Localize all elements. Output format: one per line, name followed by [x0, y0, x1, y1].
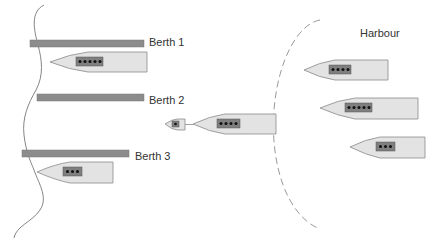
container-dots: [66, 170, 79, 173]
harbour-boundary: [273, 20, 320, 229]
berth-2: Berth 2: [37, 94, 184, 106]
harbour-diagram: Harbour Berth 1 Berth 2 Berth 3: [0, 0, 445, 243]
tug-dot: [174, 123, 177, 126]
waiting-ship-2: [320, 98, 418, 119]
harbour-label: Harbour: [360, 27, 400, 39]
berth-2-bar: [37, 94, 144, 101]
approaching-ship: [193, 114, 276, 134]
berth-3-bar: [22, 150, 129, 157]
berth-1: Berth 1: [30, 36, 184, 48]
berth-1-label: Berth 1: [149, 36, 184, 48]
tug-boat: [165, 119, 185, 130]
berth-1-bar: [30, 40, 144, 47]
waiting-ship-3: [350, 137, 425, 158]
container-dots: [379, 145, 392, 148]
waiting-ship-1: [304, 60, 388, 80]
ship-berth-3: [37, 162, 113, 183]
berth-2-label: Berth 2: [149, 94, 184, 106]
ship-berth-1: [50, 52, 147, 72]
berth-3-label: Berth 3: [135, 150, 170, 162]
berth-3: Berth 3: [22, 150, 170, 162]
